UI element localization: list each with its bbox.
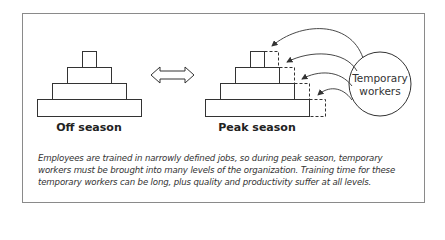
double-arrow-icon [151, 67, 194, 83]
off-season-pyramid [38, 52, 142, 117]
temporary-workers-oval [349, 52, 411, 116]
peak-level-2 [221, 84, 295, 100]
peak-level-4 [251, 52, 265, 68]
temporary-workers-label-line2: workers [359, 85, 400, 97]
temporary-workers-label-line1: Temporary [351, 72, 408, 84]
arrow-to-level-3 [287, 54, 357, 71]
off-level-4 [83, 52, 97, 68]
peak-season-label: Peak season [212, 121, 302, 134]
peak-level-3 [236, 68, 280, 84]
off-level-3 [68, 68, 112, 84]
figure-caption: Employees are trained in narrowly define… [38, 152, 418, 188]
off-season-label: Off season [44, 121, 134, 134]
off-level-2 [53, 84, 127, 100]
off-level-1 [38, 100, 142, 117]
peak-level-1 [206, 100, 310, 117]
arrow-to-level-1 [318, 89, 352, 100]
peak-season-pyramid [206, 52, 310, 117]
